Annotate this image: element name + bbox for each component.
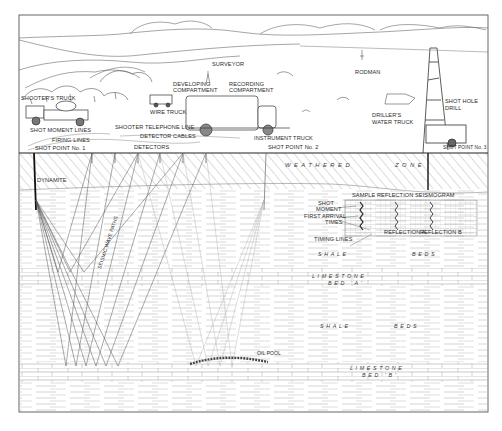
label-limestone-b: LIMESTONE	[350, 366, 404, 372]
label-surveyor: SURVEYOR	[212, 62, 244, 68]
label-beds-1: BEDS	[412, 252, 437, 258]
label-shot-point-1: SHOT POINT No. 1	[35, 146, 86, 152]
label-wire-truck: WIRE TRUCK	[150, 110, 186, 116]
seismogram-timing-lines: TIMING LINES	[314, 237, 353, 243]
seismogram-reflection-b: REFLECTION B	[420, 230, 462, 236]
label-beds-2: BEDS	[394, 324, 419, 330]
label-bed-b: BED 'B'	[362, 373, 398, 379]
label-shot-hole-1: SHOT HOLE	[445, 99, 478, 105]
seismogram-first-arrival-2: TIMES	[325, 220, 343, 226]
limestone-bed-b	[19, 362, 488, 382]
label-instrument-truck: INSTRUMENT TRUCK	[254, 136, 313, 142]
label-detector-cables: DETECTOR CABLES	[140, 134, 196, 140]
label-firing-lines: FIRING LINES	[52, 138, 90, 144]
label-zone: ZONE	[395, 162, 425, 168]
seismogram-shot-2: MOMENT	[316, 207, 341, 213]
seismogram-title: SAMPLE REFLECTION SEISMOGRAM	[352, 193, 455, 199]
label-shot-point-2: SHOT POINT No. 2	[268, 145, 319, 151]
label-shot-point-3: SHOT POINT No. 3	[443, 145, 487, 150]
label-rodman: RODMAN	[355, 70, 380, 76]
label-shooters-truck: SHOOTER'S TRUCK	[21, 96, 76, 102]
label-recording-2: COMPARTMENT	[229, 88, 273, 94]
label-weathered: WEATHERED	[285, 162, 353, 168]
label-shale-1: SHALE	[318, 252, 349, 258]
label-telephone-line: TELEPHONE LINE	[145, 125, 194, 131]
label-bed-a: BED 'A'	[328, 281, 364, 287]
label-shot-hole-2: DRILL	[445, 106, 461, 112]
lower-beds	[19, 382, 488, 412]
label-oil-pool: OIL POOL	[257, 351, 281, 356]
label-detectors: DETECTORS	[134, 145, 169, 151]
label-shot-moment-lines: SHOT MOMENT LINES	[30, 128, 91, 134]
label-developing-2: COMPARTMENT	[173, 88, 217, 94]
label-shale-2: SHALE	[320, 324, 351, 330]
seismic-diagram	[0, 0, 502, 431]
label-drillers-2: WATER TRUCK	[372, 120, 413, 126]
label-limestone-a: LIMESTONE	[312, 274, 366, 280]
label-dynamite: DYNAMITE	[37, 178, 67, 184]
label-shooter: SHOOTER	[115, 125, 143, 131]
label-drillers-1: DRILLER'S	[372, 113, 401, 119]
limestone-bed-a	[19, 268, 488, 286]
